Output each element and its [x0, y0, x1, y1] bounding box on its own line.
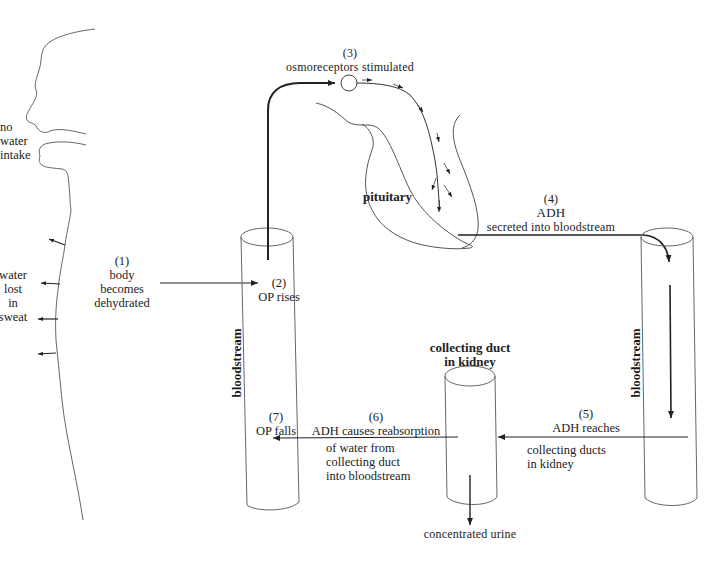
label-bloodstream-left: bloodstream [229, 318, 245, 408]
label-step2: (2) OP rises [254, 276, 304, 304]
label-title: ADH reaches [526, 421, 646, 435]
label-step5: (5) ADH reaches [526, 407, 646, 435]
label-collecting-duct: collecting duct in kidney [418, 341, 522, 369]
step-number: (6) [296, 410, 456, 424]
label-step3: (3) osmoreceptors stimulated [270, 46, 430, 74]
pituitary-outline [316, 103, 478, 249]
label-step7: (7) OP falls [250, 410, 302, 438]
label-line: water [0, 134, 31, 148]
label-title: ADH [476, 206, 626, 220]
label-line: collecting duct [326, 455, 410, 469]
label-line: body [84, 268, 160, 282]
label-water-lost-in-sweat: water lost in sweat [0, 268, 32, 324]
label-line: intake [0, 148, 31, 162]
step-number: (5) [526, 407, 646, 421]
left-bloodstream-cylinder [241, 228, 299, 510]
label-pituitary: pituitary [363, 190, 412, 204]
label-concentrated-urine: concentrated urine [410, 527, 530, 541]
label-title: ADH causes reabsorption [296, 424, 456, 438]
step-number: (7) [250, 410, 302, 424]
label-line: lost [0, 282, 32, 296]
label-bloodstream-right: bloodstream [628, 318, 644, 408]
arrow-op-to-osmoreceptors [268, 83, 335, 260]
label-line: no [0, 120, 31, 134]
label-line: collecting duct [418, 341, 522, 355]
label-step6: (6) ADH causes reabsorption [296, 410, 456, 438]
label-line: in kidney [418, 355, 522, 369]
label-step6-detail: of water from collecting duct into blood… [326, 441, 410, 483]
right-bloodstream-cylinder [641, 228, 697, 506]
label-line: sweat [0, 310, 32, 324]
label-line: becomes [84, 282, 160, 296]
label-step5-detail: collecting ducts in kidney [527, 443, 606, 471]
label-line: OP falls [250, 424, 302, 438]
label-line: OP rises [254, 290, 304, 304]
label-line: secreted into bloodstream [476, 220, 626, 234]
arrow-bloodflow-down [670, 285, 671, 418]
step-number: (1) [84, 254, 160, 268]
sweat-arrows [38, 239, 65, 354]
osmoreceptor-node [341, 75, 357, 91]
step-number: (3) [270, 46, 430, 60]
label-line: collecting ducts [527, 443, 606, 457]
label-line: osmoreceptors stimulated [270, 60, 430, 74]
step-number: (4) [476, 192, 626, 206]
label-step1: (1) body becomes dehydrated [84, 254, 160, 310]
arrow-adh-secretion [458, 235, 669, 262]
label-line: dehydrated [84, 296, 160, 310]
label-line: in kidney [527, 457, 606, 471]
label-line: in [0, 296, 32, 310]
label-line: water [0, 268, 32, 282]
label-line: into bloodstream [326, 469, 410, 483]
step-number: (2) [254, 276, 304, 290]
label-line: of water from [326, 441, 410, 455]
label-no-water-intake: no water intake [0, 120, 31, 162]
adh-diagram: no water intake water lost in sweat (1) … [0, 0, 720, 566]
label-step4: (4) ADH secreted into bloodstream [476, 192, 626, 234]
